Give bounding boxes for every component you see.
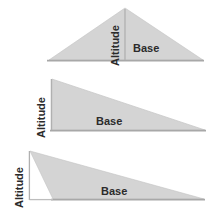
acute-triangle-shape: [49, 8, 203, 60]
acute-altitude-label: Altitude: [110, 25, 121, 66]
obtuse-base-label: Base: [101, 186, 127, 197]
right-triangle-shape: [52, 79, 205, 130]
right-base-label: Base: [96, 116, 122, 127]
right-altitude-label: Altitude: [36, 97, 47, 138]
acute-base-label: Base: [133, 43, 159, 54]
right-triangle-group: [50, 79, 206, 131]
triangle-altitude-diagram: Altitude Base Altitude Base Altitude Bas…: [0, 0, 209, 218]
obtuse-altitude-label: Altitude: [14, 167, 25, 208]
acute-triangle-group: [47, 8, 204, 61]
